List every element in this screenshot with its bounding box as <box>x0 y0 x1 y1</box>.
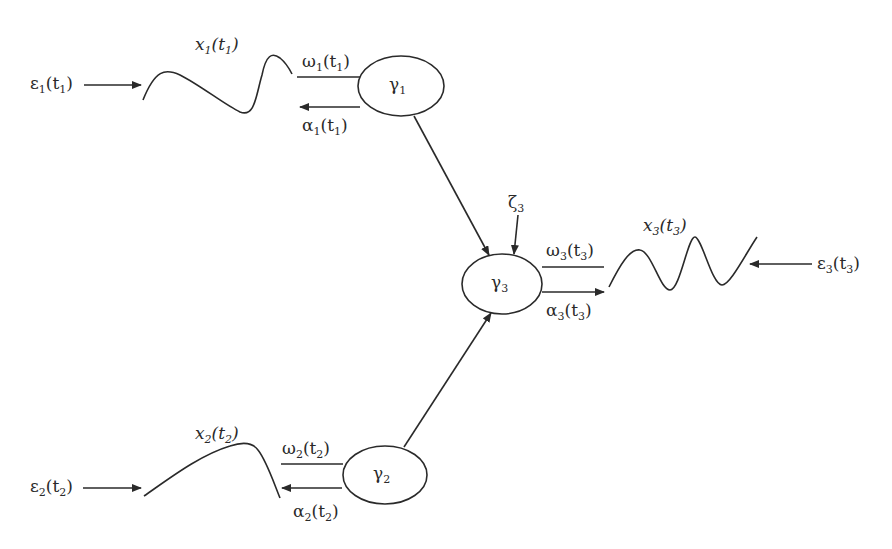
label-zeta3: ζ3 <box>508 194 524 214</box>
x3-wave <box>609 237 757 290</box>
diagram-lines <box>0 0 892 549</box>
gamma3-sub: 3 <box>501 282 508 295</box>
gamma2-sub: 2 <box>383 473 390 486</box>
path-diagram: γ1 γ3 γ2 ε1(t1) x1(t1) ω1(t1) α1(t1) ζ3 … <box>0 0 892 549</box>
gamma1-symbol: γ <box>389 74 399 94</box>
label-alpha3: α3(t3) <box>546 302 592 322</box>
node-gamma1-label: γ1 <box>389 76 406 96</box>
x2-curve <box>144 443 280 498</box>
gamma2-to-gamma3-arrow <box>404 313 491 447</box>
zeta3-arrow <box>514 215 518 254</box>
node-gamma3-label: γ3 <box>491 274 508 294</box>
gamma1-to-gamma3-arrow <box>414 116 489 255</box>
label-eps3: ε3(t3) <box>817 255 860 275</box>
label-alpha2: α2(t2) <box>293 503 339 523</box>
gamma3-symbol: γ <box>491 272 501 292</box>
gamma1-sub: 1 <box>399 84 406 97</box>
x1-wave <box>143 55 292 113</box>
gamma2-symbol: γ <box>373 463 383 483</box>
label-omega2: ω2(t2) <box>282 440 330 460</box>
node-gamma2-label: γ2 <box>373 465 390 485</box>
label-eps1: ε1(t1) <box>30 75 73 95</box>
label-alpha1: α1(t1) <box>302 117 348 137</box>
label-omega3: ω3(t3) <box>546 242 594 262</box>
label-omega1: ω1(t1) <box>302 53 350 73</box>
label-x3: x3(t3) <box>643 217 687 237</box>
label-x2: x2(t2) <box>195 425 239 445</box>
label-eps2: ε2(t2) <box>30 478 73 498</box>
label-x1: x1(t1) <box>195 36 239 56</box>
